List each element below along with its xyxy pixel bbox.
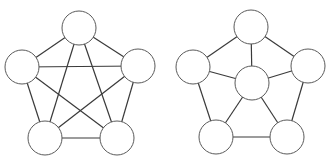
wheel-graph-w6 <box>176 10 325 154</box>
node-bottom-right <box>100 121 134 155</box>
graph-diagram <box>0 0 328 165</box>
node-right <box>121 49 155 83</box>
node-center <box>235 66 269 100</box>
node-bottom-right <box>270 120 304 154</box>
complete-graph-k5 <box>5 11 155 155</box>
node-bottom-left <box>199 120 233 154</box>
node-left <box>176 50 210 84</box>
node-top <box>234 10 268 44</box>
node-top <box>62 11 96 45</box>
node-bottom-left <box>28 121 62 155</box>
node-right <box>291 49 325 83</box>
node-left <box>5 50 39 84</box>
